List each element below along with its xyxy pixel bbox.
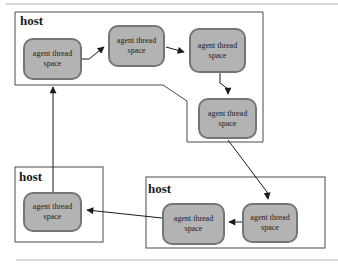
node-agent-thread-space-3: agent thread space: [189, 28, 246, 73]
host-top-label: host: [20, 14, 43, 27]
arrow-agent2-agent3: [166, 47, 184, 52]
node-label-line: space: [44, 59, 62, 69]
arrow-agent3-agent4: [220, 73, 228, 94]
node-label-line: space: [209, 51, 227, 61]
node-agent-thread-space-4: agent thread space: [198, 98, 257, 139]
node-label-line: space: [219, 119, 237, 129]
host-bottom-left-label: host: [19, 170, 42, 183]
node-label-line: space: [44, 212, 62, 222]
diagram-canvas: host host host agent thread space agent …: [0, 0, 338, 265]
arrow-agent4-agent6: [228, 140, 268, 199]
node-agent-thread-space-2: agent thread space: [108, 25, 165, 67]
node-label-line: agent thread: [198, 41, 237, 51]
node-label-line: agent thread: [33, 49, 72, 59]
node-label-line: agent thread: [33, 202, 72, 212]
arrow-agent1-agent2: [81, 47, 104, 59]
node-label-line: agent thread: [117, 36, 156, 46]
node-label-line: agent thread: [250, 213, 289, 223]
node-label-line: space: [261, 223, 279, 233]
node-label-line: space: [185, 224, 203, 234]
node-agent-thread-space-5: agent thread space: [162, 203, 225, 245]
host-bottom-right-label: host: [148, 182, 171, 195]
node-agent-thread-space-7: agent thread space: [23, 192, 82, 232]
node-label-line: agent thread: [174, 214, 213, 224]
node-agent-thread-space-1: agent thread space: [23, 38, 82, 80]
node-agent-thread-space-6: agent thread space: [242, 203, 298, 243]
node-label-line: space: [128, 46, 146, 56]
node-label-line: agent thread: [208, 109, 247, 119]
arrow-agent5-agent7: [87, 210, 162, 218]
